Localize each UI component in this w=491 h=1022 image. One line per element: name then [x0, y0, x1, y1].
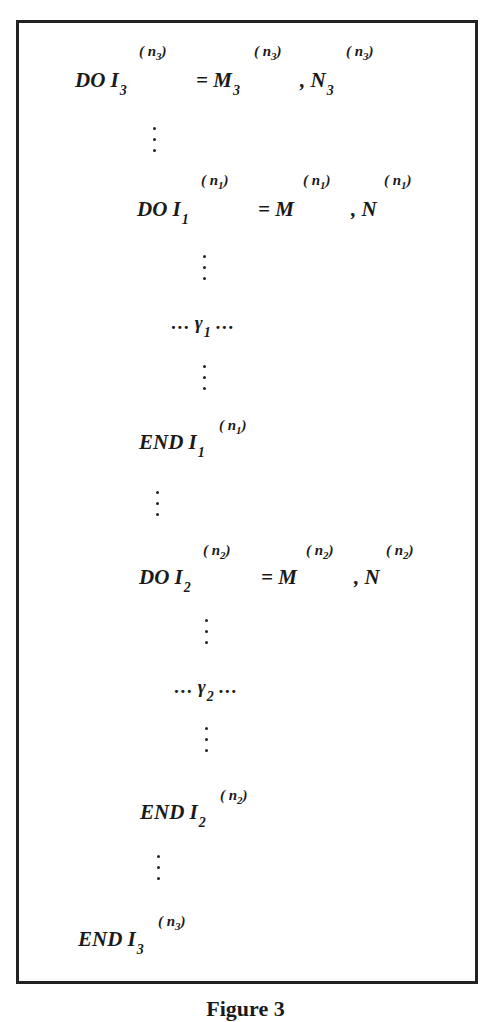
vertical-ellipsis-icon	[205, 619, 209, 652]
vertical-ellipsis-icon	[203, 255, 207, 288]
loop-variable: I	[111, 68, 119, 92]
vertical-ellipsis-icon	[205, 727, 209, 760]
superscript-n3: ( n3)	[158, 914, 186, 929]
do-i1-statement: DO I1	[137, 199, 189, 220]
gamma2-body: … γ2 …	[174, 677, 237, 696]
gamma1-body: … γ1 …	[171, 313, 234, 332]
vertical-ellipsis-icon	[156, 491, 160, 524]
superscript-n1: ( n1)	[384, 173, 412, 188]
superscript-n2: ( n2)	[306, 543, 334, 558]
subscript: 1	[182, 212, 189, 227]
superscript-n1: ( n1)	[201, 173, 229, 188]
upper-bound-n: , N	[351, 199, 377, 220]
upper-bound-n3: , N3	[300, 70, 334, 91]
end-i1-statement: END I1	[139, 432, 205, 453]
upper-bound-n: , N	[354, 567, 380, 588]
superscript-n2: ( n2)	[386, 543, 414, 558]
lower-bound-m: = M	[261, 567, 297, 588]
figure-caption: Figure 3	[0, 996, 491, 1022]
do-i3-statement: DO I3	[75, 70, 127, 91]
superscript-n2: ( n2)	[203, 543, 231, 558]
end-i3-statement: END I3	[78, 929, 144, 950]
keyword-end: END	[140, 800, 184, 824]
keyword-do: DO	[75, 68, 105, 92]
superscript-n1: ( n1)	[303, 173, 331, 188]
superscript-n3: ( n3)	[254, 44, 282, 59]
superscript-n1: ( n1)	[219, 418, 247, 433]
lower-bound-m: = M	[258, 199, 294, 220]
keyword-end: END	[139, 430, 183, 454]
keyword-end: END	[78, 927, 122, 951]
vertical-ellipsis-icon	[203, 365, 207, 398]
figure-frame	[16, 20, 478, 984]
keyword-do: DO	[137, 197, 167, 221]
keyword-do: DO	[139, 565, 169, 589]
vertical-ellipsis-icon	[153, 127, 157, 160]
do-i2-statement: DO I2	[139, 567, 191, 588]
loop-variable: I	[175, 565, 183, 589]
subscript: 2	[184, 580, 191, 595]
subscript: 3	[120, 83, 127, 98]
superscript-n2: ( n2)	[220, 788, 248, 803]
superscript-n3: ( n3)	[139, 44, 167, 59]
loop-variable: I	[173, 197, 181, 221]
end-i2-statement: END I2	[140, 802, 206, 823]
superscript-n3: ( n3)	[346, 44, 374, 59]
lower-bound-m3: = M3	[196, 70, 240, 91]
vertical-ellipsis-icon	[157, 855, 161, 888]
